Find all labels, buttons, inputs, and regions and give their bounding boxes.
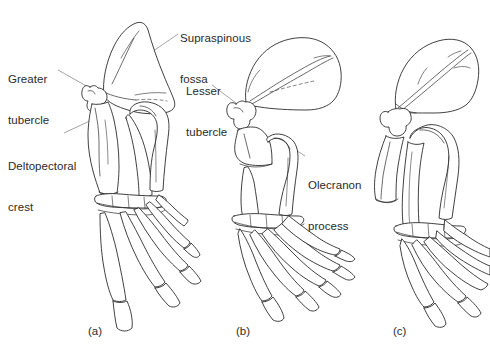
digit-a1 bbox=[100, 213, 126, 302]
label-deltopectoral-crest-line2: crest bbox=[8, 201, 76, 215]
scapula-a bbox=[103, 22, 174, 113]
panel-label-a: (a) bbox=[88, 325, 102, 337]
label-supraspinous-fossa-line1: Supraspinous bbox=[180, 32, 251, 46]
digit-a1-p2 bbox=[113, 301, 132, 331]
carpus-a bbox=[95, 194, 167, 208]
humerus-head-b bbox=[227, 101, 256, 129]
label-olecranon-process: Olecranon process bbox=[308, 152, 362, 247]
radius-a bbox=[126, 115, 152, 197]
label-greater-tubercle-line2: tubercle bbox=[8, 114, 49, 128]
panel-label-c: (c) bbox=[393, 325, 406, 337]
label-deltopectoral-crest: Deltopectoral crest bbox=[8, 133, 76, 228]
label-lesser-tubercle-line2: tubercle bbox=[186, 126, 227, 140]
label-greater-tubercle: Greater tubercle bbox=[8, 46, 49, 141]
radius-b bbox=[241, 167, 259, 220]
radius-c bbox=[402, 142, 424, 226]
humerus-b bbox=[235, 127, 272, 166]
label-olecranon-process-line1: Olecranon bbox=[308, 179, 362, 193]
panel-label-b: (b) bbox=[236, 325, 250, 337]
label-lesser-tubercle: Lesser tubercle bbox=[186, 58, 227, 153]
humerus-a bbox=[88, 102, 119, 194]
label-deltopectoral-crest-line1: Deltopectoral bbox=[8, 160, 76, 174]
ulna-b bbox=[267, 134, 298, 216]
label-lesser-tubercle-line1: Lesser bbox=[186, 85, 227, 99]
scapula-c bbox=[395, 39, 478, 113]
label-olecranon-process-line2: process bbox=[308, 220, 362, 234]
panel-c-skeleton bbox=[375, 39, 490, 327]
label-greater-tubercle-line1: Greater bbox=[8, 73, 49, 87]
humerus-head-c bbox=[380, 108, 411, 136]
leader-line-greater-tubercle bbox=[58, 70, 90, 88]
